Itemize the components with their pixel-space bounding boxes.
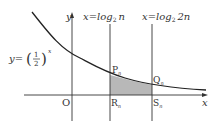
svg-text:2: 2 (34, 60, 38, 68)
line-label-2: x=log22n (142, 11, 190, 23)
svg-text:x=log2n: x=log2n (83, 11, 125, 23)
point-R-label: Rn (111, 98, 121, 109)
svg-text:1: 1 (34, 51, 38, 59)
diagram-canvas: y x O x=log2n x=log22n y= ( 1 2 ) x Pn Q… (0, 0, 216, 131)
y-axis-label: y (65, 11, 72, 22)
line-label-1: x=log2n (83, 11, 125, 23)
svg-text:x: x (48, 47, 52, 54)
curve-label: y= ( 1 2 ) x (8, 47, 52, 68)
svg-text:y=: y= (8, 53, 23, 64)
shaded-region (110, 75, 152, 95)
svg-text:(: ( (26, 50, 32, 68)
svg-text:): ) (41, 50, 47, 68)
point-S-label: Sn (153, 98, 162, 109)
point-Q-label: Qn (153, 75, 164, 86)
x-axis-label: x (202, 97, 208, 108)
svg-text:x=log22n: x=log22n (142, 11, 190, 23)
point-P-label: Pn (112, 65, 121, 76)
origin-label: O (62, 97, 70, 108)
